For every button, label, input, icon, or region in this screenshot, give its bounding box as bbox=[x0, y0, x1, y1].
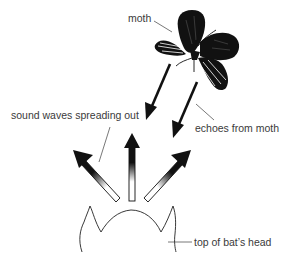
moth-leader-line bbox=[154, 21, 172, 32]
moth-label: moth bbox=[128, 12, 151, 24]
sound-wave-arrow-left bbox=[73, 150, 120, 202]
moth-illustration bbox=[155, 10, 239, 90]
echoes-label: echoes from moth bbox=[195, 122, 279, 134]
sound-wave-arrow-middle bbox=[124, 133, 140, 201]
bat-head-outline bbox=[80, 206, 176, 252]
echo-arrow-2 bbox=[172, 82, 197, 138]
bat-head-label: top of bat’s head bbox=[194, 236, 271, 248]
sound-wave-arrow-right bbox=[144, 150, 191, 202]
diagram-canvas bbox=[0, 0, 285, 269]
echoes-leader-line bbox=[196, 104, 214, 120]
echo-arrow-1 bbox=[145, 64, 170, 120]
echolocation-diagram: moth sound waves spreading out echoes fr… bbox=[0, 0, 285, 269]
sound-waves-leader-line bbox=[99, 127, 110, 162]
sound-waves-label: sound waves spreading out bbox=[11, 109, 139, 121]
